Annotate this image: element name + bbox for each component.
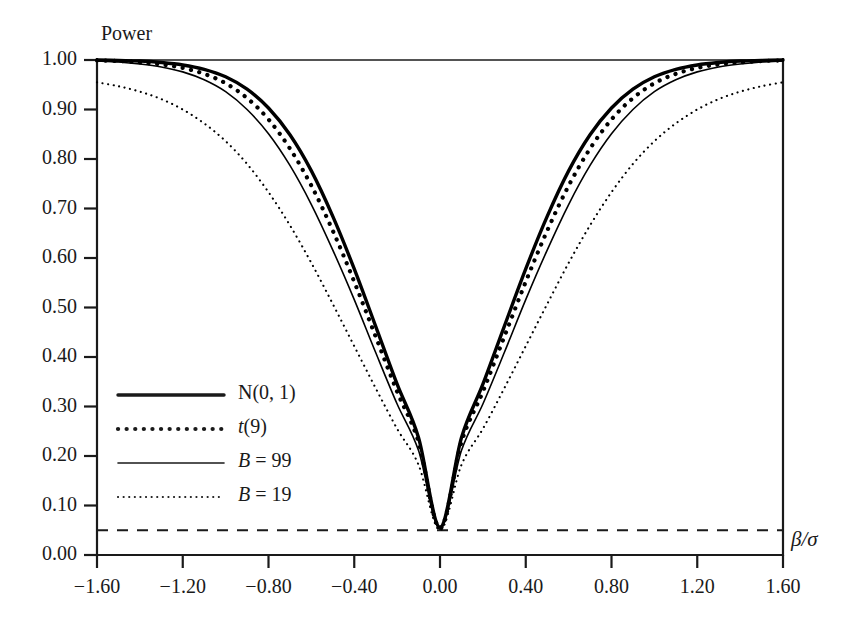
y-axis-title: Power	[101, 22, 152, 45]
legend-item: t(9)	[112, 412, 342, 446]
y-tick-label: 1.00	[0, 47, 77, 70]
legend-item: B = 19	[112, 480, 342, 514]
y-tick-label: 0.10	[0, 493, 77, 516]
legend-swatch	[112, 446, 230, 480]
y-tick-label: 0.30	[0, 394, 77, 417]
y-tick-marks	[84, 60, 97, 555]
legend-label: N(0, 1)	[238, 381, 296, 404]
legend-swatch	[112, 378, 230, 412]
y-tick-label: 0.00	[0, 542, 77, 565]
y-tick-label: 0.50	[0, 295, 77, 318]
legend-label: B = 99	[238, 449, 292, 472]
y-tick-label: 0.60	[0, 245, 77, 268]
x-axis-title: β/σ	[791, 527, 818, 552]
legend-swatch	[112, 412, 230, 446]
y-tick-label: 0.70	[0, 196, 77, 219]
legend: N(0, 1)t(9)B = 99B = 19	[112, 378, 342, 514]
power-curve-figure: Power β/σ 0.000.100.200.300.400.500.600.…	[0, 0, 860, 620]
y-tick-label: 0.80	[0, 146, 77, 169]
y-tick-label: 0.20	[0, 443, 77, 466]
legend-label: t(9)	[238, 415, 267, 438]
y-tick-label: 0.40	[0, 344, 77, 367]
legend-item: N(0, 1)	[112, 378, 342, 412]
legend-swatch	[112, 480, 230, 514]
x-tick-marks	[97, 555, 783, 568]
plot-canvas	[0, 0, 860, 620]
legend-label: B = 19	[238, 483, 292, 506]
y-tick-label: 0.90	[0, 97, 77, 120]
legend-item: B = 99	[112, 446, 342, 480]
x-tick-label: 1.60	[728, 575, 838, 598]
